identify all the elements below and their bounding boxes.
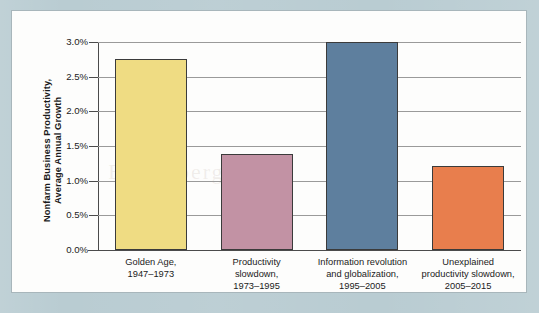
x-axis-category-label-line: 1947–1973: [92, 268, 210, 280]
y-axis-tick-labels: 0.0%0.5%1.0%1.5%2.0%2.5%3.0%: [52, 42, 88, 250]
y-axis-tick: [89, 42, 98, 43]
bar: [115, 59, 187, 250]
y-axis-tick-label: 2.0%: [66, 105, 88, 116]
x-axis-category-label-line: Unexplained: [409, 256, 527, 268]
x-axis-category-label-line: Productivity: [198, 256, 316, 268]
y-axis-tick: [89, 111, 98, 112]
x-axis-line: [88, 250, 521, 251]
y-axis-tick-label: 2.5%: [66, 71, 88, 82]
x-axis-category-label: Unexplainedproductivity slowdown,2005–20…: [409, 256, 527, 293]
x-axis-category-label-line: productivity slowdown,: [409, 268, 527, 280]
x-axis-category-label-line: 1973–1995: [198, 280, 316, 292]
x-axis-category-label: Golden Age,1947–1973: [92, 256, 210, 280]
x-axis-category-label-line: slowdown,: [198, 268, 316, 280]
y-axis-tick: [89, 250, 98, 251]
x-axis-category-label-line: 2005–2015: [409, 280, 527, 292]
x-axis-category-label-line: Information revolution: [304, 256, 422, 268]
figure-frame: Bloomberg Nonfarm Business Productivity,…: [0, 0, 539, 313]
x-axis-category-labels: Golden Age,1947–1973Productivityslowdown…: [98, 256, 521, 313]
y-axis-tick-label: 0.5%: [66, 209, 88, 220]
plot-area: [98, 42, 521, 250]
bar: [432, 166, 504, 250]
y-axis-tick: [89, 215, 98, 216]
y-axis-tick-label: 0.0%: [66, 244, 88, 255]
bar: [326, 42, 398, 250]
x-axis-category-label: Information revolutionand globalization,…: [304, 256, 422, 293]
y-axis-tick: [89, 181, 98, 182]
bar: [221, 154, 293, 250]
y-axis-tick: [89, 146, 98, 147]
y-axis-tick-label: 1.5%: [66, 140, 88, 151]
x-axis-category-label-line: 1995–2005: [304, 280, 422, 292]
y-axis-tick-label: 3.0%: [66, 36, 88, 47]
chart-panel: Bloomberg Nonfarm Business Productivity,…: [11, 10, 527, 293]
y-axis-tick: [89, 77, 98, 78]
x-axis-category-label-line: and globalization,: [304, 268, 422, 280]
y-axis-tick-label: 1.0%: [66, 175, 88, 186]
gridline: [98, 42, 521, 43]
x-axis-category-label-line: Golden Age,: [92, 256, 210, 268]
x-axis-category-label: Productivityslowdown,1973–1995: [198, 256, 316, 293]
